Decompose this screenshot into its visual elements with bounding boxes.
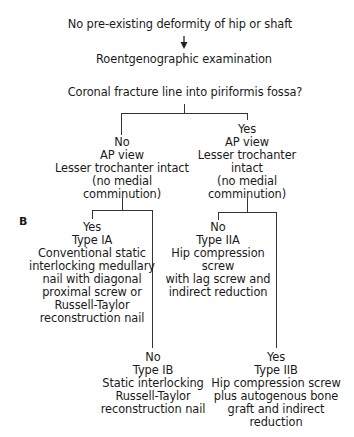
connector [247, 113, 248, 120]
type-ib-node: No Type IB Static interlocking Russell-T… [98, 351, 208, 416]
connector [218, 212, 277, 213]
connector [122, 197, 123, 210]
type-iib-node: Yes Type IIB Hip compression screw plus … [208, 351, 344, 429]
start-node: No pre-existing deformity of hip or shaf… [60, 18, 300, 31]
connector [218, 212, 219, 220]
question-node: Coronal fracture line into piriformis fo… [60, 86, 310, 99]
connector [92, 210, 153, 211]
exam-node: Roentgenographic examination [84, 53, 284, 66]
type-ia-node: Yes Type IA Conventional static interloc… [28, 221, 156, 325]
no-branch-node: No AP view Lesser trochanter intact (no … [52, 136, 192, 201]
type-iia-node: No Type IIA Hip compression screw with l… [158, 221, 278, 299]
yes-branch-node: Yes AP view Lesser trochanter intact (no… [182, 123, 312, 201]
connector [121, 113, 248, 114]
connector [92, 210, 93, 219]
connector [121, 113, 122, 135]
connector [247, 197, 248, 212]
down-arrow-icon [179, 36, 189, 50]
figure-label: B [19, 215, 27, 228]
